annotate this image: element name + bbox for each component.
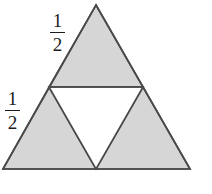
fraction-bar (5, 110, 20, 111)
fraction-denominator: 2 (51, 34, 65, 54)
fraction-denominator: 2 (6, 112, 20, 132)
figure-canvas: 1 2 1 2 (0, 0, 212, 194)
fraction-numerator: 1 (6, 89, 20, 109)
fraction-label-upper-left-side: 1 2 (50, 11, 65, 54)
fraction-numerator: 1 (51, 11, 65, 31)
sierpinski-triangle-diagram (0, 0, 212, 194)
fraction-label-lower-left-side: 1 2 (5, 89, 20, 132)
fraction-bar (50, 32, 65, 33)
